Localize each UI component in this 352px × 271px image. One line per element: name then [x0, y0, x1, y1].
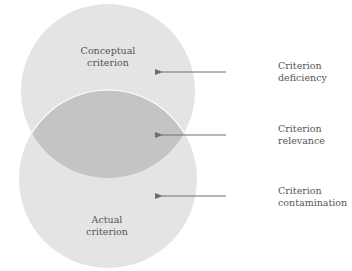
- actual-criterion-label: Actual criterion: [57, 214, 157, 238]
- criterion-deficiency-label: Criterion deficiency: [278, 60, 327, 84]
- conceptual-criterion-label: Conceptual criterion: [58, 45, 158, 69]
- relevance-line-1: Criterion: [278, 123, 325, 135]
- deficiency-line-2: deficiency: [278, 72, 327, 84]
- contamination-line-1: Criterion: [278, 185, 347, 197]
- conceptual-label-line-2: criterion: [58, 57, 158, 69]
- contamination-line-2: contamination: [278, 197, 347, 209]
- actual-label-line-1: Actual: [57, 214, 157, 226]
- conceptual-label-line-1: Conceptual: [58, 45, 158, 57]
- criterion-contamination-label: Criterion contamination: [278, 185, 347, 209]
- criterion-relevance-label: Criterion relevance: [278, 123, 325, 147]
- deficiency-line-1: Criterion: [278, 60, 327, 72]
- actual-label-line-2: criterion: [57, 226, 157, 238]
- relevance-line-2: relevance: [278, 135, 325, 147]
